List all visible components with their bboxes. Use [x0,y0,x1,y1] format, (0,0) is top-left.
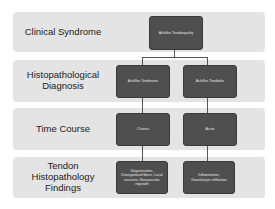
node-achilles-tendinosis: Achilles Tendinosis [116,65,170,98]
connector-right-diag-time [207,96,208,114]
node-achilles-tendinitis: Achilles Tendinitis [183,65,237,98]
node-achilles-tendinopathy: Achilles Tendinopathy [149,16,203,50]
connector-horizontal [142,57,208,58]
node-chronic: Chronic [116,113,170,146]
node-chronic-findings: Degeneration, Disorganized fibers, Local… [116,161,168,194]
row-label-clinical-syndrome: Clinical Syndrome [13,12,113,52]
row-label-time-course: Time Course [13,108,113,150]
connector-left-time-findings [142,144,143,162]
connector-root-down [174,49,175,57]
row-label-findings: Tendon Histopathology Findings [13,157,113,198]
node-acute: Acute [183,113,237,146]
connector-right-time-findings [207,144,208,162]
row-label-histopathological-diagnosis: Histopathological Diagnosis [13,60,113,102]
connector-left-diag-time [142,96,143,114]
node-acute-findings: Inflammation, Granulocyte infiltration [183,161,235,194]
